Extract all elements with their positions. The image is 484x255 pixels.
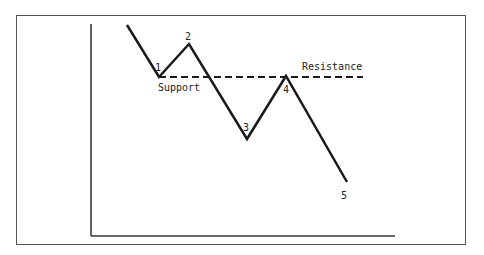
point-label-4: 4 [283,84,289,95]
point-label-3: 3 [243,122,249,133]
price-path-line [127,25,347,182]
point-label-2: 2 [185,31,191,42]
support-resistance-diagram: 1 2 3 4 5 Support Resistance [0,0,484,255]
point-label-1: 1 [155,62,161,73]
point-label-5: 5 [341,190,347,201]
resistance-label: Resistance [302,61,362,72]
support-label: Support [158,82,200,93]
